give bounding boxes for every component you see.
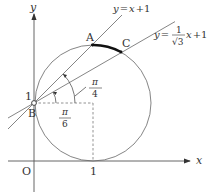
svg-text:√3: √3 bbox=[172, 37, 184, 47]
svg-text:π: π bbox=[91, 77, 99, 87]
arc-AC bbox=[93, 45, 122, 52]
origin-label: O bbox=[22, 165, 31, 178]
svg-text:y=x+1: y=x+1 bbox=[112, 3, 150, 14]
angle-arc-pi-4 bbox=[63, 74, 75, 103]
point-B bbox=[32, 101, 37, 106]
svg-text:4: 4 bbox=[92, 89, 98, 99]
circle-lines-diagram: x y O 1 1 A B C π 4 π 6 y=x+1 bbox=[0, 0, 210, 194]
x-tick-label: 1 bbox=[90, 165, 97, 178]
svg-text:x+1: x+1 bbox=[186, 29, 207, 40]
label-A: A bbox=[85, 31, 95, 44]
angle-label-pi-4: π 4 bbox=[89, 77, 102, 99]
equation-line2: y= 1 √3 x+1 bbox=[153, 25, 207, 47]
equation-line1: y=x+1 bbox=[112, 3, 150, 14]
y-axis-label: y bbox=[29, 1, 37, 14]
angle-label-pi-6: π 6 bbox=[59, 107, 71, 129]
x-axis-label: x bbox=[196, 154, 203, 167]
point-C bbox=[120, 51, 123, 54]
svg-text:1: 1 bbox=[176, 25, 182, 35]
point-A bbox=[91, 44, 94, 47]
label-B: B bbox=[28, 107, 36, 120]
svg-text:6: 6 bbox=[62, 119, 68, 129]
y-tick-label: 1 bbox=[25, 90, 32, 103]
svg-text:y=: y= bbox=[153, 29, 169, 40]
leader-pi-4 bbox=[75, 87, 86, 96]
label-C: C bbox=[122, 37, 130, 50]
svg-text:π: π bbox=[61, 107, 69, 117]
